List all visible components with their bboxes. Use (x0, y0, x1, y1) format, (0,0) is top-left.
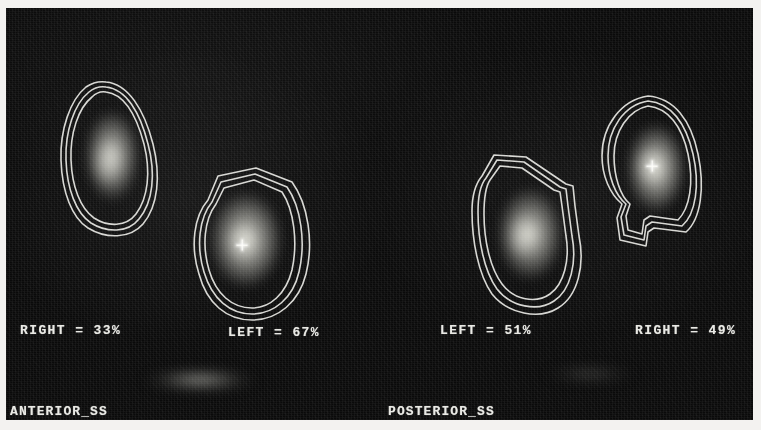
result-anterior-right: RIGHT = 33% (20, 323, 121, 338)
roi-contour-anterior-left (180, 154, 320, 330)
view-label-anterior: ANTERIOR_SS (10, 404, 108, 419)
roi-contour-posterior-left (464, 130, 602, 316)
kidney-roi-posterior-right[interactable] (608, 104, 704, 240)
scan-image-frame: RIGHT = 33% LEFT = 67% ANTERIOR_SS (6, 8, 753, 420)
panel-posterior: LEFT = 51% RIGHT = 49% POSTERIOR_SS (380, 8, 753, 420)
result-anterior-left: LEFT = 67% (228, 325, 320, 340)
result-posterior-left: LEFT = 51% (440, 323, 532, 338)
roi-contour-anterior-right (54, 76, 170, 236)
bladder-activity-posterior (532, 358, 652, 384)
kidney-roi-posterior-left[interactable] (478, 144, 588, 296)
kidney-roi-anterior-right[interactable] (68, 90, 156, 222)
renal-scintigraphy-viewer: RIGHT = 33% LEFT = 67% ANTERIOR_SS (0, 0, 761, 430)
view-label-posterior: POSTERIOR_SS (388, 404, 495, 419)
panel-anterior: RIGHT = 33% LEFT = 67% ANTERIOR_SS (6, 8, 380, 420)
centroid-marker-anterior-left (237, 240, 248, 251)
bladder-activity-anterior (126, 356, 276, 390)
roi-contour-posterior-right (594, 90, 718, 260)
kidney-roi-anterior-left[interactable] (194, 168, 306, 308)
result-posterior-right: RIGHT = 49% (635, 323, 736, 338)
centroid-marker-posterior-right (647, 161, 658, 172)
